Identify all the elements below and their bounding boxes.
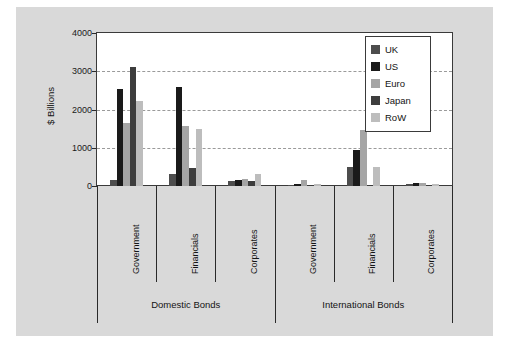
bar-japan-2 xyxy=(248,181,255,186)
bar-euro-3 xyxy=(301,180,308,186)
legend-item-us[interactable]: US xyxy=(371,58,426,75)
bar-uk-5 xyxy=(406,184,413,186)
legend-label: Japan xyxy=(385,96,411,106)
legend-item-euro[interactable]: Euro xyxy=(371,75,426,92)
bar-japan-4 xyxy=(367,185,374,186)
bar-euro-0 xyxy=(123,123,130,186)
legend-label: UK xyxy=(385,45,398,55)
bar-us-3 xyxy=(294,184,301,186)
legend-item-japan[interactable]: Japan xyxy=(371,92,426,109)
y-tick-label-4000: 4000 xyxy=(52,28,92,38)
bar-us-1 xyxy=(176,87,183,186)
bar-euro-4 xyxy=(360,130,367,186)
y-tick-label-0: 0 xyxy=(52,181,92,191)
bar-uk-2 xyxy=(228,181,235,186)
legend-label: US xyxy=(385,62,398,72)
bar-us-2 xyxy=(235,180,242,186)
bar-row-5 xyxy=(432,184,439,186)
bar-japan-3 xyxy=(307,185,314,186)
legend-item-row[interactable]: RoW xyxy=(371,109,426,126)
category-separator-2 xyxy=(215,186,216,282)
category-separator-1 xyxy=(156,186,157,282)
legend-swatch-euro-icon xyxy=(371,79,380,88)
bar-uk-3 xyxy=(288,185,295,186)
bar-row-3 xyxy=(314,184,321,186)
legend-label: RoW xyxy=(385,113,406,123)
legend-label: Euro xyxy=(385,79,405,89)
y-tick-label-2000: 2000 xyxy=(52,105,92,115)
legend-item-uk[interactable]: UK xyxy=(371,41,426,58)
bar-japan-5 xyxy=(426,185,433,186)
bar-euro-2 xyxy=(242,179,249,186)
chart-figure: $ Billions 01000200030004000 GovernmentF… xyxy=(16,7,493,336)
bar-euro-5 xyxy=(419,183,426,186)
category-separator-5 xyxy=(393,186,394,282)
category-label-financials-4: Financials xyxy=(367,233,377,274)
y-tick-label-1000: 1000 xyxy=(52,143,92,153)
bar-uk-1 xyxy=(169,174,176,186)
legend-swatch-japan-icon xyxy=(371,96,380,105)
category-label-government-3: Government xyxy=(308,224,318,274)
bar-row-2 xyxy=(255,174,262,186)
bar-euro-1 xyxy=(182,126,189,186)
legend-swatch-uk-icon xyxy=(371,45,380,54)
category-label-corporates-5: Corporates xyxy=(426,229,436,274)
category-label-financials-1: Financials xyxy=(190,233,200,274)
bar-us-4 xyxy=(353,150,360,186)
category-label-corporates-2: Corporates xyxy=(249,229,259,274)
category-separator-4 xyxy=(334,186,335,282)
legend-swatch-us-icon xyxy=(371,62,380,71)
group-label-domestic-bonds: Domestic Bonds xyxy=(97,299,275,310)
bar-us-0 xyxy=(117,89,124,186)
bar-japan-1 xyxy=(189,168,196,186)
bar-us-5 xyxy=(413,183,420,186)
legend-swatch-row-icon xyxy=(371,113,380,122)
chart-legend: UKUSEuroJapanRoW xyxy=(365,36,431,132)
category-separator-6 xyxy=(452,186,453,323)
bar-row-1 xyxy=(196,129,203,186)
bar-uk-0 xyxy=(110,180,117,187)
bar-row-0 xyxy=(136,101,143,186)
group-label-international-bonds: International Bonds xyxy=(275,299,453,310)
bar-uk-4 xyxy=(347,167,354,187)
bar-japan-0 xyxy=(130,67,137,186)
bar-row-4 xyxy=(373,167,380,186)
y-tick-label-3000: 3000 xyxy=(52,66,92,76)
category-label-government-0: Government xyxy=(131,224,141,274)
